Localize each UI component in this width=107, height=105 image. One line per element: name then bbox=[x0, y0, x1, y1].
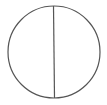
diagram-canvas bbox=[0, 0, 107, 105]
divided-circle-diagram bbox=[0, 0, 107, 105]
